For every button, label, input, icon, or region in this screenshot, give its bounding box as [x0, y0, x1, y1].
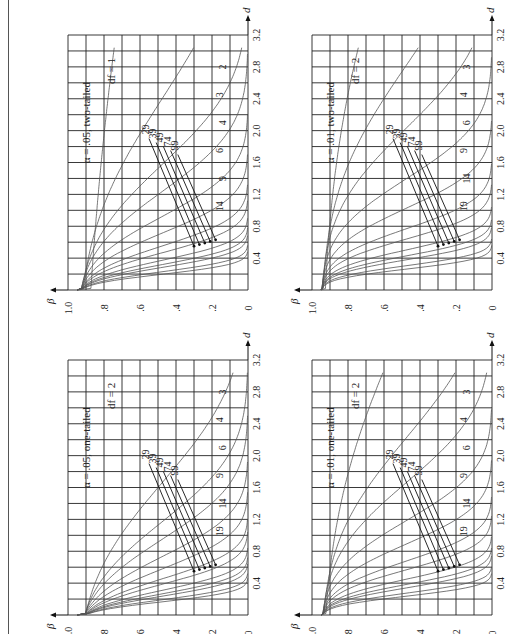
d-tick-label: 2.8	[495, 386, 506, 399]
oc-curve-df-4	[321, 48, 472, 290]
d-tick-label: 0.4	[251, 577, 262, 590]
df-label: 2	[217, 64, 228, 69]
beta-tick-label: 1.0	[63, 302, 74, 315]
d-tick-label: 3.2	[251, 354, 262, 367]
chart-a01-two: dβ1.0.8.6.4.200.40.81.21.62.02.42.83.2α …	[288, 7, 506, 314]
oc-curve-df-74	[321, 239, 492, 290]
oc-curve-df-99	[321, 574, 492, 615]
beta-tick-label: 0	[243, 306, 254, 311]
d-tick-label: 0.8	[251, 220, 262, 233]
beta-tick-label: 0	[243, 631, 254, 634]
label-arrow	[149, 139, 194, 247]
beta-tick-label: .8	[99, 304, 110, 312]
df-label: 3	[214, 92, 225, 97]
d-tick-label: 0.8	[495, 220, 506, 233]
d-tick-label: 2.4	[495, 93, 506, 106]
beta-tick-label: .6	[379, 629, 390, 634]
beta-tick-label: .4	[171, 629, 182, 634]
df-label: 4	[217, 120, 228, 125]
df-label: 4	[458, 417, 469, 422]
d-tick-label: 1.6	[251, 481, 262, 494]
df-label: 9	[458, 473, 469, 478]
margin-rule	[8, 0, 9, 634]
oc-curve-df-39	[321, 548, 492, 615]
df-first-label: df = 2	[349, 58, 361, 84]
df-label: 6	[217, 445, 228, 450]
d-tick-label: 2.4	[251, 93, 262, 106]
df-first-label: df = 2	[105, 383, 117, 409]
beta-tick-label: 1.0	[307, 302, 318, 315]
df-label: 19	[458, 201, 469, 211]
label-arrow	[415, 151, 455, 242]
curves	[77, 48, 248, 290]
oc-curve-df-6	[77, 462, 248, 615]
df-label: 14	[217, 498, 228, 508]
beta-axis-label: β	[44, 298, 56, 305]
d-axis-label: d	[484, 332, 496, 338]
beta-tick-label: .8	[343, 304, 354, 312]
df-label: 14	[461, 173, 472, 183]
label-arrow	[149, 464, 194, 572]
df-label: 99	[413, 466, 424, 476]
df-label: 9	[217, 176, 228, 181]
curves	[321, 48, 492, 290]
d-tick-label: 3.2	[495, 354, 506, 367]
curves	[321, 373, 492, 615]
d-tick-label: 0.8	[251, 545, 262, 558]
d-tick-label: 1.6	[495, 156, 506, 169]
df-label: 3	[461, 389, 472, 394]
d-tick-label: 1.2	[251, 513, 262, 526]
beta-tick-label: .4	[415, 629, 426, 634]
label-arrow	[393, 464, 438, 572]
oc-curve-df-19	[77, 532, 248, 615]
beta-tick-label: .2	[451, 629, 462, 634]
label-arrow	[422, 480, 460, 565]
oc-curve-df-19	[77, 201, 248, 290]
d-axis-label: d	[484, 7, 496, 13]
d-tick-label: 0.4	[495, 252, 506, 265]
d-axis-label: d	[240, 332, 252, 338]
chart-title: α = .05, one-tailed	[80, 407, 92, 488]
df-first-label: df = 1	[105, 58, 117, 84]
df-label: 6	[461, 445, 472, 450]
label-arrow	[171, 151, 211, 242]
beta-tick-label: .6	[379, 304, 390, 312]
label-arrow	[400, 468, 443, 570]
beta-axis-label: β	[288, 298, 300, 305]
df-label: 4	[214, 417, 225, 422]
df-label: 99	[169, 466, 180, 476]
oc-curve-df-39	[77, 228, 248, 290]
d-tick-label: 2.0	[251, 449, 262, 462]
label-arrow	[422, 155, 460, 240]
beta-tick-label: .4	[171, 304, 182, 312]
chart-a05-two: dβ1.0.8.6.4.200.40.81.21.62.02.42.83.2α …	[44, 7, 262, 314]
oc-curve-df-99	[321, 245, 492, 290]
oc-curve-df-9	[77, 155, 248, 291]
grid	[312, 35, 492, 290]
curves	[77, 373, 248, 615]
d-tick-label: 2.8	[251, 386, 262, 399]
oc-curve-charts: dβ1.0.8.6.4.200.40.81.21.62.02.42.83.2α …	[0, 0, 506, 634]
oc-curve-df-99	[77, 252, 248, 290]
beta-tick-label: 1.0	[307, 627, 318, 634]
oc-curve-df-49	[321, 228, 492, 290]
label-arrow	[415, 476, 455, 567]
label-arrow	[171, 476, 211, 567]
chart-a01-one: dβ1.0.8.6.4.200.40.81.21.62.02.42.83.2α …	[288, 332, 506, 634]
df-first-label: df = 2	[349, 383, 361, 409]
df-label: 19	[214, 526, 225, 536]
df-label: 4	[458, 92, 469, 97]
page: dβ1.0.8.6.4.200.40.81.21.62.02.42.83.2α …	[0, 0, 506, 634]
df-label: 19	[458, 526, 469, 536]
df-label: 14	[461, 498, 472, 508]
df-label: 6	[214, 148, 225, 153]
beta-tick-label: 0	[487, 306, 498, 311]
chart-title: α = .01, one-tailed	[324, 407, 336, 488]
df-label: 3	[461, 64, 472, 69]
beta-tick-label: 0	[487, 631, 498, 634]
beta-axis-label: β	[44, 623, 56, 630]
d-tick-label: 2.8	[495, 61, 506, 74]
d-tick-label: 3.2	[495, 29, 506, 42]
df-label: 9	[458, 148, 469, 153]
d-tick-label: 2.0	[251, 124, 262, 137]
